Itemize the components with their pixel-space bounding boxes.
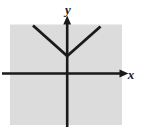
x-axis-label: x <box>127 67 135 82</box>
figure-container: x y <box>0 0 145 133</box>
y-axis-label: y <box>63 2 71 17</box>
graph-figure: x y <box>0 0 145 133</box>
